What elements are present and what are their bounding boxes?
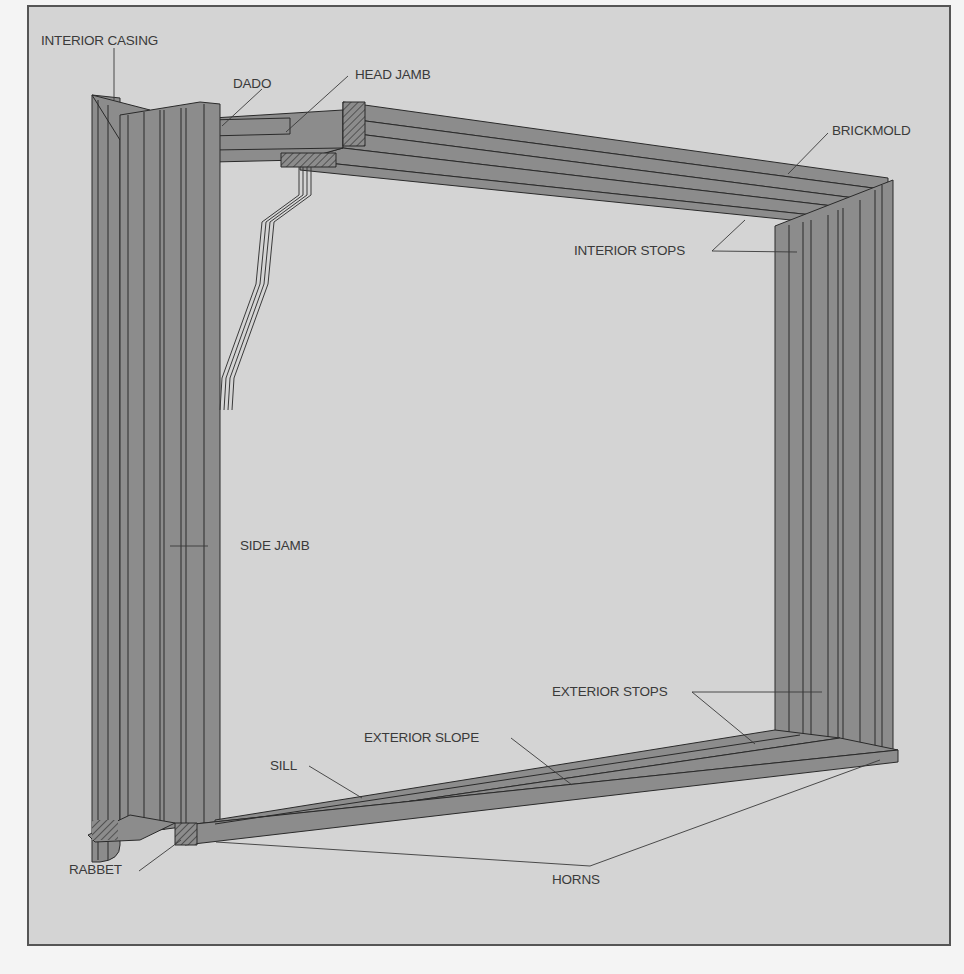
label-exterior-stops: EXTERIOR STOPS bbox=[552, 685, 667, 699]
head-jamb-shape bbox=[208, 102, 888, 224]
window-frame-illustration bbox=[0, 0, 964, 974]
sill-shape bbox=[175, 730, 898, 845]
label-rabbet: RABBET bbox=[69, 863, 122, 877]
label-interior-stops: INTERIOR STOPS bbox=[574, 244, 685, 258]
label-exterior-slope: EXTERIOR SLOPE bbox=[364, 731, 479, 745]
label-interior-casing: INTERIOR CASING bbox=[41, 34, 158, 48]
label-side-jamb: SIDE JAMB bbox=[240, 539, 309, 553]
sash-cord bbox=[220, 167, 311, 410]
label-sill: SILL bbox=[270, 759, 297, 773]
label-head-jamb: HEAD JAMB bbox=[355, 68, 430, 82]
label-horns: HORNS bbox=[552, 873, 600, 887]
right-jamb-shape bbox=[775, 180, 893, 762]
label-brickmold: BRICKMOLD bbox=[832, 124, 910, 138]
label-dado: DADO bbox=[233, 77, 271, 91]
